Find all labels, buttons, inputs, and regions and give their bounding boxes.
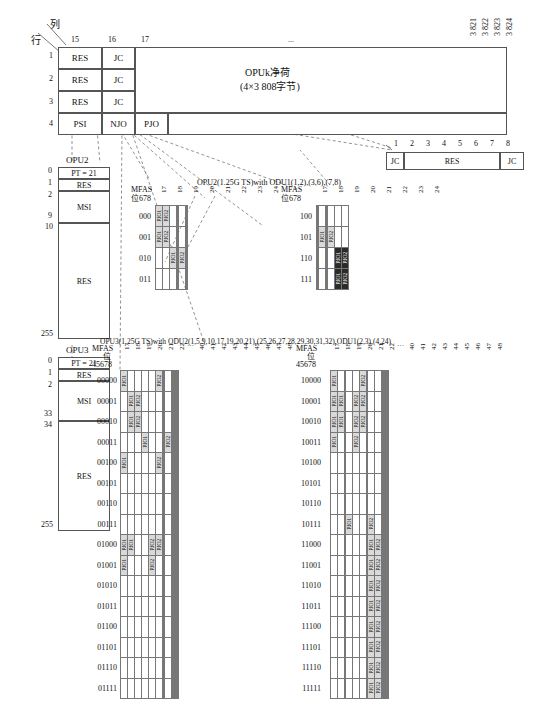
- grid-cell[interactable]: [360, 535, 367, 556]
- grid-cell[interactable]: PJO2: [342, 269, 349, 290]
- grid-cell[interactable]: [338, 473, 345, 494]
- grid-cell[interactable]: [128, 453, 135, 474]
- grid-cell[interactable]: [156, 514, 163, 535]
- grid-cell[interactable]: [346, 617, 353, 638]
- grid-cell[interactable]: PJO1: [368, 596, 375, 617]
- grid-cell[interactable]: [346, 494, 353, 515]
- grid-cell[interactable]: [135, 494, 142, 515]
- grid-cell[interactable]: [331, 494, 338, 515]
- grid-cell[interactable]: [135, 453, 142, 474]
- grid-cell[interactable]: [135, 371, 142, 392]
- grid-cell[interactable]: [388, 473, 389, 494]
- grid-cell[interactable]: [353, 637, 360, 658]
- grid-cell[interactable]: [388, 678, 389, 699]
- grid-cell[interactable]: [142, 371, 149, 392]
- grid-cell[interactable]: [360, 494, 367, 515]
- grid-cell[interactable]: [338, 535, 345, 556]
- grid-cell[interactable]: [121, 617, 128, 638]
- grid-cell[interactable]: [142, 576, 149, 597]
- grid-cell[interactable]: [165, 371, 172, 392]
- grid-cell[interactable]: [338, 371, 345, 392]
- grid-cell[interactable]: [165, 576, 172, 597]
- grid-cell[interactable]: [165, 494, 172, 515]
- grid-cell[interactable]: [121, 494, 128, 515]
- grid-cell[interactable]: [156, 617, 163, 638]
- grid-cell[interactable]: [179, 269, 186, 290]
- grid-cell[interactable]: [368, 412, 375, 433]
- grid-cell[interactable]: [128, 637, 135, 658]
- grid-cell[interactable]: [142, 391, 149, 412]
- grid-cell[interactable]: [335, 227, 342, 248]
- grid-cell[interactable]: [142, 514, 149, 535]
- grid-cell[interactable]: [360, 637, 367, 658]
- grid-cell[interactable]: PJO1: [121, 555, 128, 576]
- grid-cell[interactable]: [179, 206, 186, 227]
- grid-cell[interactable]: [338, 576, 345, 597]
- grid-cell[interactable]: [135, 535, 142, 556]
- grid-cell[interactable]: [319, 269, 326, 290]
- grid-cell[interactable]: [346, 432, 353, 453]
- grid-cell[interactable]: [165, 391, 172, 412]
- grid-cell[interactable]: [319, 248, 326, 269]
- grid-cell[interactable]: [178, 494, 179, 515]
- grid-cell[interactable]: [128, 514, 135, 535]
- grid-cell[interactable]: PJO2: [375, 617, 382, 638]
- grid-cell[interactable]: [331, 658, 338, 679]
- grid-cell[interactable]: PJO2: [375, 535, 382, 556]
- grid-cell[interactable]: [142, 678, 149, 699]
- grid-cell[interactable]: [142, 494, 149, 515]
- grid-cell[interactable]: [360, 678, 367, 699]
- grid-cell[interactable]: [142, 617, 149, 638]
- grid-cell[interactable]: PJO2: [353, 412, 360, 433]
- grid-cell[interactable]: [346, 658, 353, 679]
- grid-cell[interactable]: [338, 637, 345, 658]
- grid-cell[interactable]: [368, 453, 375, 474]
- grid-cell[interactable]: [388, 576, 389, 597]
- grid-cell[interactable]: [331, 637, 338, 658]
- grid-cell[interactable]: [165, 535, 172, 556]
- grid-cell[interactable]: PJO2: [149, 535, 156, 556]
- grid-cell[interactable]: [165, 658, 172, 679]
- grid-cell[interactable]: [178, 637, 179, 658]
- grid-cell[interactable]: [149, 412, 156, 433]
- grid-cell[interactable]: [328, 206, 335, 227]
- grid-cell[interactable]: [149, 596, 156, 617]
- grid-cell[interactable]: [165, 678, 172, 699]
- grid-cell[interactable]: [342, 227, 349, 248]
- grid-cell[interactable]: [128, 555, 135, 576]
- grid-cell[interactable]: [375, 432, 382, 453]
- grid-cell[interactable]: PJO1: [121, 535, 128, 556]
- grid-cell[interactable]: [388, 658, 389, 679]
- grid-cell[interactable]: [156, 473, 163, 494]
- grid-cell[interactable]: [338, 453, 345, 474]
- grid-cell[interactable]: [156, 576, 163, 597]
- grid-cell[interactable]: [375, 391, 382, 412]
- grid-cell[interactable]: [178, 535, 179, 556]
- grid-cell[interactable]: [319, 206, 326, 227]
- grid-cell[interactable]: PJO1: [368, 678, 375, 699]
- grid-cell[interactable]: PJO2: [375, 637, 382, 658]
- grid-cell[interactable]: [338, 432, 345, 453]
- grid-cell[interactable]: [135, 617, 142, 638]
- grid-cell[interactable]: [375, 412, 382, 433]
- grid-cell[interactable]: [128, 473, 135, 494]
- grid-cell[interactable]: PJO2: [353, 391, 360, 412]
- grid-cell[interactable]: [187, 227, 188, 248]
- grid-cell[interactable]: PJO2: [375, 678, 382, 699]
- grid-cell[interactable]: [156, 678, 163, 699]
- grid-cell[interactable]: PJO1: [331, 432, 338, 453]
- grid-cell[interactable]: [178, 412, 179, 433]
- grid-cell[interactable]: [346, 371, 353, 392]
- grid-cell[interactable]: [156, 596, 163, 617]
- grid-cell[interactable]: [331, 596, 338, 617]
- grid-cell[interactable]: [135, 576, 142, 597]
- grid-cell[interactable]: [368, 432, 375, 453]
- grid-cell[interactable]: [388, 391, 389, 412]
- grid-cell[interactable]: [388, 596, 389, 617]
- grid-cell[interactable]: PJO1: [338, 391, 345, 412]
- grid-cell[interactable]: [156, 391, 163, 412]
- grid-cell[interactable]: [346, 453, 353, 474]
- grid-cell[interactable]: PJO2: [135, 391, 142, 412]
- grid-cell[interactable]: [368, 473, 375, 494]
- grid-cell[interactable]: PJO1: [368, 658, 375, 679]
